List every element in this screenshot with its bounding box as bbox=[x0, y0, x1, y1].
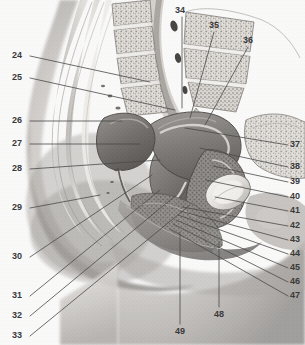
leader-line-42 bbox=[182, 207, 288, 226]
label-number-45[interactable]: 45 bbox=[290, 263, 300, 272]
leader-line-32 bbox=[30, 196, 175, 316]
leader-line-45 bbox=[176, 220, 288, 268]
label-number-31[interactable]: 31 bbox=[12, 291, 22, 300]
leader-line-25 bbox=[30, 78, 175, 110]
anatomical-figure: 2425262728293031323334353637383940414243… bbox=[0, 0, 305, 345]
label-number-33[interactable]: 33 bbox=[12, 331, 22, 340]
label-number-47[interactable]: 47 bbox=[290, 291, 300, 300]
label-number-48[interactable]: 48 bbox=[214, 310, 224, 319]
leader-line-29 bbox=[30, 195, 100, 208]
label-number-29[interactable]: 29 bbox=[12, 203, 22, 212]
leader-line-46 bbox=[173, 224, 288, 282]
label-number-25[interactable]: 25 bbox=[12, 73, 22, 82]
label-number-49[interactable]: 49 bbox=[175, 327, 185, 336]
leader-line-41 bbox=[215, 197, 288, 211]
label-number-28[interactable]: 28 bbox=[12, 164, 22, 173]
label-number-35[interactable]: 35 bbox=[209, 21, 219, 30]
label-number-32[interactable]: 32 bbox=[12, 311, 22, 320]
label-number-26[interactable]: 26 bbox=[12, 116, 22, 125]
leader-line-37 bbox=[185, 128, 288, 145]
label-number-24[interactable]: 24 bbox=[12, 51, 22, 60]
leader-line-24 bbox=[30, 56, 150, 82]
leader-line-36 bbox=[205, 47, 248, 125]
label-number-30[interactable]: 30 bbox=[12, 252, 22, 261]
label-number-37[interactable]: 37 bbox=[290, 140, 300, 149]
label-number-27[interactable]: 27 bbox=[12, 139, 22, 148]
label-number-38[interactable]: 38 bbox=[290, 162, 300, 171]
leader-line-35 bbox=[190, 32, 214, 118]
label-number-40[interactable]: 40 bbox=[290, 192, 300, 201]
leader-line-38 bbox=[200, 148, 288, 167]
leader-line-47 bbox=[170, 229, 288, 296]
leader-line-31 bbox=[30, 190, 160, 296]
leader-line-28 bbox=[30, 160, 160, 169]
label-number-41[interactable]: 41 bbox=[290, 206, 300, 215]
label-number-34[interactable]: 34 bbox=[175, 6, 185, 15]
leader-line-39 bbox=[213, 166, 288, 182]
label-number-44[interactable]: 44 bbox=[290, 249, 300, 258]
leader-line-30 bbox=[30, 175, 152, 257]
leader-line-40 bbox=[206, 180, 288, 197]
label-number-46[interactable]: 46 bbox=[290, 277, 300, 286]
leader-line-33 bbox=[30, 205, 190, 336]
label-number-42[interactable]: 42 bbox=[290, 221, 300, 230]
label-number-39[interactable]: 39 bbox=[290, 177, 300, 186]
label-number-36[interactable]: 36 bbox=[243, 36, 253, 45]
leader-lines bbox=[0, 0, 305, 345]
label-number-43[interactable]: 43 bbox=[290, 235, 300, 244]
